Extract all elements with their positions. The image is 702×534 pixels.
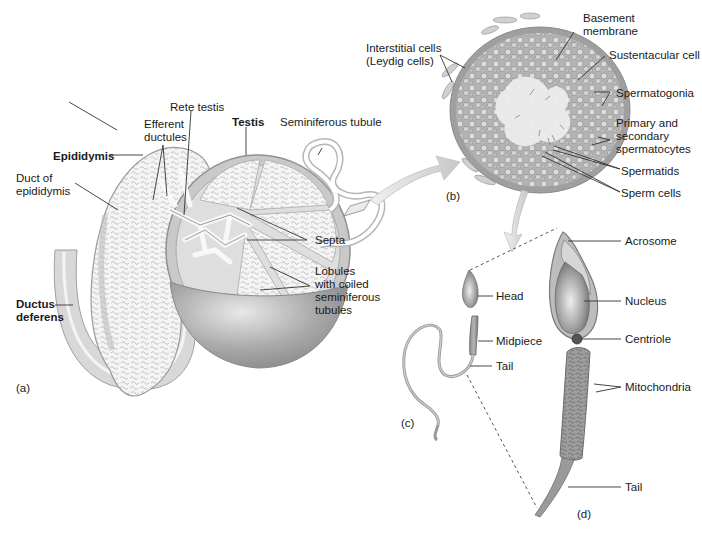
- tail-detail: [535, 458, 574, 517]
- label-interstitial-cells-line1: Interstitial cells: [366, 42, 442, 54]
- label-spermatocytes-line3: spermatocytes: [616, 143, 691, 155]
- label-testis: Testis: [232, 116, 264, 128]
- arrow-b-to-d: [504, 190, 528, 252]
- label-efferent-ductules-line1: Efferent: [144, 118, 185, 130]
- label-sustentacular-cell: Sustentacular cell: [609, 49, 700, 61]
- label-spermatogonia: Spermatogonia: [616, 87, 695, 99]
- label-rete-testis: Rete testis: [170, 101, 225, 113]
- label-tail-d: Tail: [625, 481, 642, 493]
- label-spermatocytes-line2: secondary: [616, 130, 669, 142]
- small-sperm-midpiece: [470, 316, 478, 355]
- label-ductus-deferens-line2: deferens: [16, 311, 64, 323]
- label-seminiferous-tubule: Seminiferous tubule: [280, 116, 382, 128]
- label-ductus-deferens-line1: Ductus: [16, 298, 55, 310]
- panel-label-b: (b): [446, 190, 460, 202]
- label-mitochondria: Mitochondria: [625, 381, 691, 393]
- panel-b-illustration: [440, 13, 630, 193]
- panel-label-d: (d): [577, 508, 591, 520]
- zoom-connector-bottom: [467, 375, 537, 508]
- label-tail-c: Tail: [496, 360, 513, 372]
- label-interstitial-cells-line2: (Leydig cells): [366, 55, 434, 67]
- label-efferent-ductules-line2: ductules: [144, 131, 187, 143]
- label-lobules-line2: with coiled: [314, 278, 369, 290]
- label-spermatocytes-line1: Primary and: [616, 117, 678, 129]
- centriole-shape: [572, 334, 582, 344]
- label-sperm-cells: Sperm cells: [621, 187, 681, 199]
- label-centriole: Centriole: [625, 333, 671, 345]
- label-midpiece: Midpiece: [496, 335, 542, 347]
- section-plane: [344, 200, 370, 216]
- panel-c-illustration: [404, 270, 478, 440]
- panel-label-a: (a): [16, 382, 30, 394]
- testis-sperm-diagram: Rete testis Efferent ductules Testis Sem…: [0, 0, 702, 534]
- label-duct-of-epididymis-line2: epididymis: [16, 185, 71, 197]
- label-lobules-line4: tubules: [315, 304, 352, 316]
- label-spermatids: Spermatids: [621, 165, 679, 177]
- diagram-canvas: Rete testis Efferent ductules Testis Sem…: [0, 0, 702, 534]
- label-basement-membrane-line2: membrane: [583, 25, 638, 37]
- small-sperm-head: [462, 270, 478, 308]
- label-acrosome: Acrosome: [625, 235, 677, 247]
- panel-label-c: (c): [401, 417, 415, 429]
- label-nucleus: Nucleus: [625, 295, 667, 307]
- label-basement-membrane-line1: Basement: [583, 12, 636, 24]
- label-lobules-line3: seminiferous: [315, 291, 380, 303]
- panel-d-illustration: [535, 232, 598, 517]
- label-epididymis: Epididymis: [53, 150, 114, 162]
- label-septa: Septa: [315, 234, 346, 246]
- label-lobules-line1: Lobules: [315, 265, 356, 277]
- label-duct-of-epididymis-line1: Duct of: [16, 172, 53, 184]
- label-head: Head: [496, 290, 524, 302]
- midpiece-detail: [560, 348, 590, 461]
